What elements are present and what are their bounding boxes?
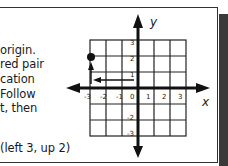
left-arrow — [93, 77, 134, 83]
y-tick: 3 — [130, 39, 134, 47]
x-tick: 3 — [178, 93, 182, 101]
x-tick: -3 — [84, 93, 91, 101]
x-tick: 2 — [162, 93, 166, 101]
y-tick: 2 — [130, 55, 134, 63]
x-tick: 1 — [146, 93, 150, 101]
up-arrow — [88, 62, 94, 84]
x-tick: 0 — [130, 93, 134, 101]
x-axis-label: x — [201, 95, 210, 109]
y-tick: -3 — [127, 130, 134, 138]
x-tick: -2 — [100, 93, 107, 101]
y-tick: 1 — [130, 71, 134, 79]
plotted-point — [87, 53, 95, 61]
y-axis-label: y — [149, 15, 158, 29]
y-tick: -2 — [127, 114, 134, 122]
x-tick: -1 — [116, 93, 123, 101]
coordinate-graph: y x -3 -2 -1 0 1 2 3 3 2 1 -2 -3 — [0, 0, 228, 166]
